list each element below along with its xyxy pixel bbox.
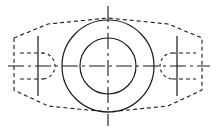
drawing-surface [0,0,216,131]
technical-drawing-canvas [0,0,216,131]
